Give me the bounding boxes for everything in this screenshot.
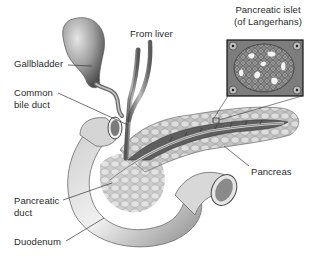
label-from-liver: From liver bbox=[130, 28, 173, 40]
label-pancreas: Pancreas bbox=[251, 166, 292, 178]
label-pancreatic-duct-line1: Pancreatic bbox=[14, 195, 59, 207]
label-common-bile-duct-line2: bile duct bbox=[14, 99, 50, 111]
label-pancreatic-duct-line2: duct bbox=[14, 207, 32, 219]
label-duodenum: Duodenum bbox=[14, 236, 61, 248]
label-gallbladder: Gallbladder bbox=[14, 58, 63, 70]
pancreas-diagram: Gallbladder From liver Common bile duct … bbox=[0, 0, 310, 261]
gallbladder-shape bbox=[63, 18, 122, 116]
label-islet-line1: Pancreatic islet bbox=[231, 4, 305, 16]
label-common-bile-duct-line1: Common bbox=[14, 87, 53, 99]
label-islet-line2: (of Langerhans) bbox=[231, 16, 305, 28]
